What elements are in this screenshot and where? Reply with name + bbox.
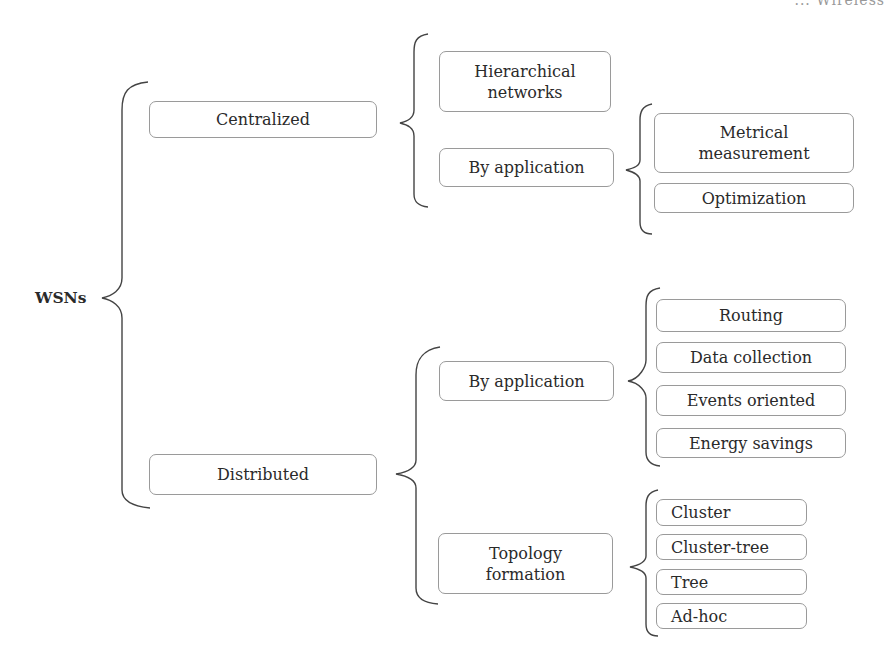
topology-bracket-icon — [630, 490, 658, 636]
node-events-oriented: Events oriented — [656, 385, 846, 416]
node-data-collection: Data collection — [656, 342, 846, 373]
node-cluster-tree: Cluster-tree — [656, 534, 807, 560]
node-hierarchical-networks: Hierarchical networks — [439, 51, 611, 112]
node-topology-formation: Topology formation — [438, 533, 613, 594]
node-optimization: Optimization — [654, 183, 854, 213]
node-centralized: Centralized — [149, 101, 377, 138]
node-cluster: Cluster — [656, 499, 807, 526]
node-routing: Routing — [656, 299, 846, 332]
node-distributed: Distributed — [149, 454, 377, 495]
node-tree: Tree — [656, 569, 807, 595]
distributed-bracket-icon — [396, 347, 440, 604]
centralized-bracket-icon — [400, 34, 428, 207]
root-label-wsns: WSNs — [35, 288, 87, 307]
node-ad-hoc: Ad-hoc — [656, 603, 807, 629]
node-metrical-measurement: Metrical measurement — [654, 113, 854, 173]
node-distributed-by-application: By application — [439, 361, 614, 401]
root-bracket-icon — [102, 82, 150, 508]
central-app-bracket-icon — [626, 104, 652, 234]
node-centralized-by-application: By application — [439, 148, 614, 187]
node-energy-savings: Energy savings — [656, 428, 846, 458]
